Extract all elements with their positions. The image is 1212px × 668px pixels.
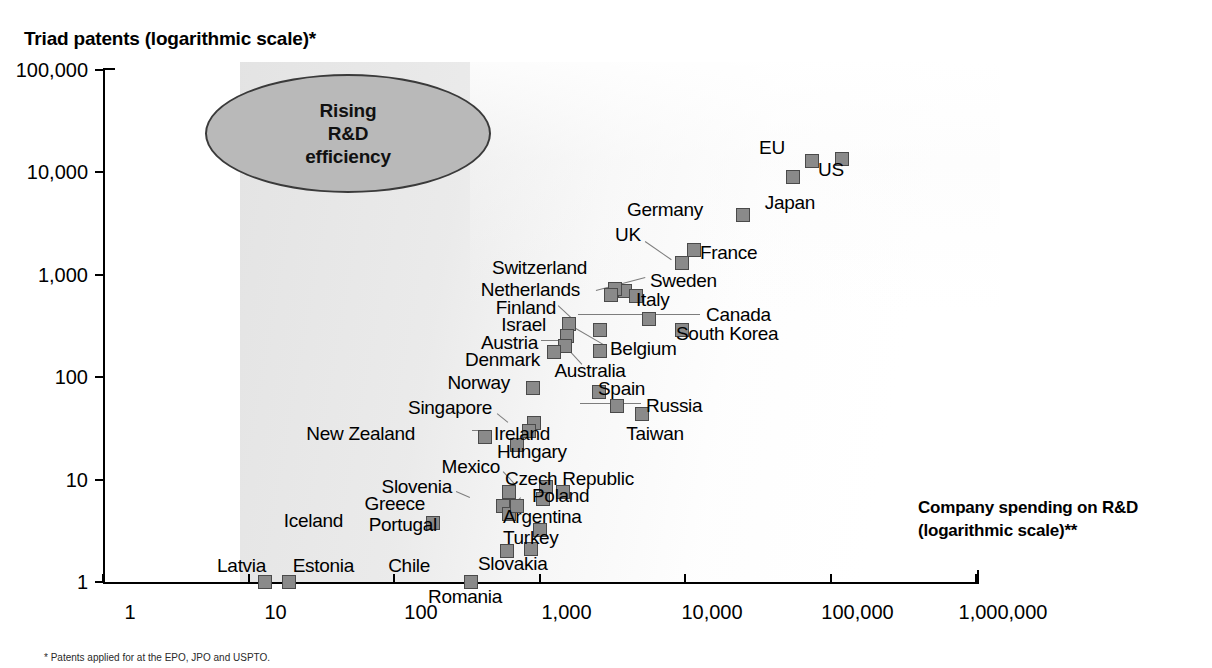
data-point-germany [736,208,750,222]
x-axis-title: Company spending on R&D (logarithmic sca… [918,497,1198,542]
leader-austria [541,340,558,341]
point-label-belgium: Belgium [610,338,677,360]
y-tick-label-100000: 100,000 [16,59,88,82]
point-label-estonia: Estonia [293,555,354,577]
point-label-latvia: Latvia [217,555,266,577]
data-point-netherlands [604,288,618,302]
y-axis-top-cap [103,68,115,70]
data-point-latvia [258,575,272,589]
point-label-mexico: Mexico [442,456,500,478]
point-label-spain: Spain [598,378,645,400]
scatter-chart: Triad patents (logarithmic scale)* Compa… [0,0,1212,668]
x-tick-1000000 [975,574,977,583]
rising-rd-efficiency-annotation: Rising R&D efficiency [205,74,491,193]
point-label-hungary: Hungary [497,441,567,463]
footnote: * Patents applied for at the EPO, JPO an… [44,652,270,663]
data-point-denmark [547,345,561,359]
point-label-eu: EU [759,137,785,159]
y-tick-10000 [95,171,104,173]
point-label-france: France [700,242,757,264]
data-point-norway [526,381,540,395]
y-tick-label-10000: 10,000 [27,161,88,184]
point-label-singapore: Singapore [408,397,492,419]
annotation-line-1: Rising [305,99,391,122]
leader-slovenia [456,491,471,498]
point-label-uk: UK [615,224,641,246]
y-tick-label-10: 10 [66,468,88,491]
leader-uk [645,241,672,260]
point-label-switzerland: Switzerland [492,257,587,279]
chart-title: Triad patents (logarithmic scale)* [24,28,316,50]
x-tick-1 [102,574,104,583]
x-tick-label-10: 10 [264,601,286,624]
leader-canada [578,314,700,315]
data-point-belgium [593,323,607,337]
leader-singapore [497,413,509,423]
data-point-estonia [282,575,296,589]
point-label-japan: Japan [765,192,815,214]
data-point-france [687,243,701,257]
x-tick-label-100000: 100,000 [821,601,893,624]
x-tick-1000 [539,574,541,583]
point-label-portugal: Portugal [369,514,437,536]
point-label-iceland: Iceland [284,510,343,532]
x-tick-label-1000000: 1,000,000 [959,601,1048,624]
point-label-greece: Greece [364,493,425,515]
point-label-argentina: Argentina [503,506,582,528]
point-label-chile: Chile [388,555,430,577]
annotation-text: Rising R&D efficiency [305,99,391,169]
point-label-germany: Germany [627,199,703,221]
point-label-poland: Poland [532,485,589,507]
y-axis-line [103,68,105,584]
point-label-italy: Italy [636,289,669,311]
point-label-romania: Romania [428,586,502,608]
data-point-taiwan [610,399,624,413]
point-label-norway: Norway [447,372,510,394]
point-label-south-korea: South Korea [676,323,778,345]
y-tick-100000 [95,69,104,71]
point-label-taiwan: Taiwan [626,423,683,445]
data-point-new-zealand [478,430,492,444]
x-tick-label-1000: 1,000 [541,601,591,624]
y-tick-100 [95,376,104,378]
x-tick-label-10000: 10,000 [681,601,742,624]
x-tick-10000 [684,574,686,583]
point-label-new-zealand: New Zealand [306,423,415,445]
x-tick-label-1: 1 [124,601,135,624]
data-point-canada [642,312,656,326]
y-tick-10 [95,479,104,481]
data-point-australia [593,344,607,358]
point-label-us: US [818,159,844,181]
point-label-denmark: Denmark [465,349,540,371]
annotation-line-3: efficiency [305,145,391,168]
data-point-japan [786,170,800,184]
x-tick-100000 [830,574,832,583]
annotation-line-2: R&D [305,122,391,145]
x-axis-line [103,582,979,584]
y-tick-label-1000: 1,000 [38,263,88,286]
data-point-uk [675,256,689,270]
y-tick-label-100: 100 [55,366,88,389]
point-label-slovakia: Slovakia [478,553,547,575]
x-axis-right-cap [977,570,979,584]
y-tick-label-1: 1 [77,571,88,594]
point-label-russia: Russia [646,395,702,417]
y-tick-1000 [95,274,104,276]
point-label-turkey: Turkey [503,527,559,549]
